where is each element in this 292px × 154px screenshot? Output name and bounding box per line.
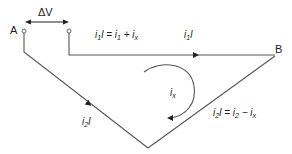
left-branch-wire xyxy=(24,33,148,148)
bottom-right-current-equation: i2l = i2 − ix xyxy=(213,107,257,119)
top-right-current-label: i1l xyxy=(184,29,193,41)
current-loop-diagram: ΔV A B i1l = i1 + ix i1l ix i2l i2l = i2… xyxy=(0,0,292,154)
voltage-label: ΔV xyxy=(38,6,53,18)
loop-current-arrow-icon xyxy=(167,115,173,121)
node-b-label: B xyxy=(275,43,282,55)
terminal-a-icon xyxy=(22,29,26,33)
top-left-current-equation: i1l = i1 + ix xyxy=(95,29,139,41)
top-current-arrow-icon xyxy=(193,52,199,58)
node-a-label: A xyxy=(10,24,18,36)
right-diagonal-wire xyxy=(148,56,275,148)
bottom-left-current-label: i2l xyxy=(82,116,91,128)
loop-current-label: ix xyxy=(170,87,176,99)
terminal-right-icon xyxy=(67,29,71,33)
